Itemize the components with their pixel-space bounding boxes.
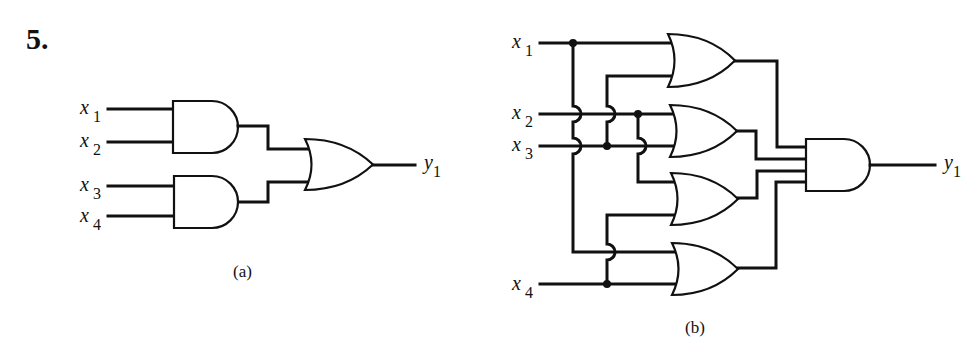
or-gate-icon xyxy=(671,173,738,225)
and-gate-icon xyxy=(174,176,238,228)
and-gate-icon xyxy=(806,139,870,191)
or-gate-icon xyxy=(305,139,373,190)
label-a-y1: y1 xyxy=(424,152,441,180)
caption-b: (b) xyxy=(685,318,705,338)
wire-b-x4-branch xyxy=(607,215,674,284)
circuit-b xyxy=(540,34,935,295)
junction-dot xyxy=(634,110,642,118)
and-gate-icon xyxy=(173,101,238,153)
label-b-x4: x4 xyxy=(512,273,533,301)
logic-circuits xyxy=(0,0,977,353)
wire-b-x2-branch xyxy=(638,114,674,182)
label-a-x4: x4 xyxy=(80,205,101,233)
or-gate-icon xyxy=(670,105,737,157)
wire-b-or1-out xyxy=(735,61,806,147)
label-a-x2: x2 xyxy=(80,130,101,158)
wire-a-and2-out xyxy=(239,182,309,202)
circuit-a xyxy=(108,101,415,228)
wire-b-or2-out xyxy=(737,131,806,159)
label-b-x2: x2 xyxy=(512,102,533,130)
label-a-x3: x3 xyxy=(80,174,101,202)
label-a-x1: x1 xyxy=(80,97,101,125)
junction-dot xyxy=(603,280,611,288)
caption-a: (a) xyxy=(233,262,252,282)
wire-b-or4-out xyxy=(738,182,806,268)
or-gate-icon xyxy=(668,34,735,87)
label-b-y1: y1 xyxy=(944,152,961,180)
label-b-x1: x1 xyxy=(512,31,533,59)
or-gate-icon xyxy=(672,243,738,295)
junction-dot xyxy=(603,142,611,150)
junction-dot xyxy=(569,39,577,47)
label-b-x3: x3 xyxy=(512,134,533,162)
wire-b-or3-out xyxy=(738,171,806,198)
wire-a-and1-out xyxy=(238,126,309,149)
